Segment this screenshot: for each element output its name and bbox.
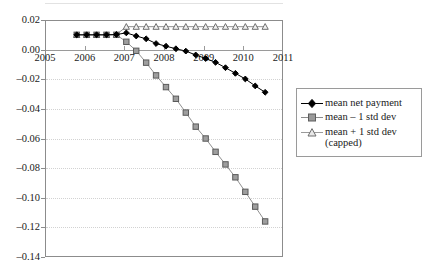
series-line: [77, 35, 265, 222]
diamond-data-point: [163, 43, 169, 49]
series-line: [77, 33, 265, 92]
legend-item-mean-minus-std-dev[interactable]: mean – 1 std dev: [300, 111, 417, 124]
data-series-layer: [45, 20, 283, 257]
diamond-data-point: [143, 36, 149, 42]
y-tick-label: –0.02: [0, 74, 40, 85]
diamond-data-point: [153, 41, 159, 47]
square-data-point: [253, 204, 258, 209]
chart-legend: mean net payment mean – 1 std dev mean +…: [296, 88, 422, 157]
y-tick-label: –0.14: [0, 252, 40, 263]
diamond-data-point: [123, 30, 129, 36]
diamond-data-point: [233, 70, 239, 76]
square-data-point: [163, 84, 168, 89]
square-data-point: [183, 110, 188, 115]
square-data-point: [262, 219, 267, 224]
y-tick-label: –0.04: [0, 104, 40, 115]
legend-item-mean-net-payment[interactable]: mean net payment: [300, 97, 417, 110]
legend-label: mean – 1 std dev: [324, 111, 396, 123]
diamond-data-point: [193, 52, 199, 58]
y-tick-label: –0.06: [0, 134, 40, 145]
series-square: [74, 32, 268, 224]
diamond-data-point: [133, 33, 139, 39]
square-data-point: [203, 136, 208, 141]
legend-label: mean net payment: [324, 97, 402, 109]
square-data-point: [134, 48, 139, 53]
diamond-data-point: [223, 65, 229, 71]
triangle-marker-icon: [300, 126, 324, 139]
diamond-marker-icon: [300, 97, 324, 110]
diamond-data-point: [262, 89, 268, 95]
square-data-point: [233, 175, 238, 180]
square-data-point: [124, 39, 129, 44]
square-data-point: [223, 162, 228, 167]
y-tick-label: –0.08: [0, 163, 40, 174]
square-data-point: [243, 189, 248, 194]
square-data-point: [213, 149, 218, 154]
y-tick-label: 0.02: [0, 15, 40, 26]
top-clipped-line: [45, 3, 283, 4]
square-data-point: [193, 124, 198, 129]
diamond-data-point: [213, 59, 219, 65]
legend-item-mean-plus-std-dev-capped[interactable]: mean + 1 std dev (capped): [300, 126, 417, 149]
y-tick-label: –0.12: [0, 222, 40, 233]
diamond-data-point: [183, 48, 189, 54]
series-triangle: [74, 24, 269, 38]
diamond-data-point: [173, 46, 179, 52]
square-data-point: [153, 73, 158, 78]
square-data-point: [143, 60, 148, 65]
y-tick-mark: [41, 257, 45, 258]
chart-container: 0.020.00–0.02–0.04–0.06–0.08–0.10–0.12–0…: [0, 0, 430, 274]
series-diamond: [74, 30, 268, 95]
square-marker-icon: [300, 111, 324, 124]
diamond-data-point: [203, 56, 209, 62]
y-tick-label: –0.10: [0, 193, 40, 204]
legend-label: mean + 1 std dev (capped): [324, 126, 417, 149]
square-data-point: [173, 96, 178, 101]
